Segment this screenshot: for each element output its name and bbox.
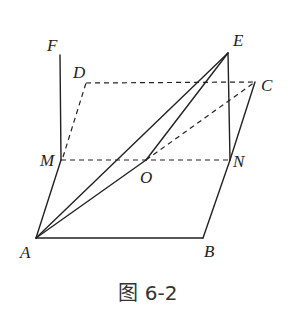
figure-caption: 图 6-2	[118, 281, 177, 305]
label-d: D	[72, 63, 86, 82]
label-a: A	[19, 243, 31, 262]
label-m: M	[39, 151, 55, 170]
label-b: B	[204, 242, 215, 261]
segment-md-dashed	[63, 83, 86, 157]
segment-ne	[228, 53, 230, 160]
segment-bn	[203, 160, 230, 238]
segment-ao	[36, 160, 146, 238]
geometry-figure: F D E C M O N A B 图 6-2	[0, 0, 296, 323]
label-e: E	[232, 31, 244, 50]
label-c: C	[261, 76, 273, 95]
label-n: N	[232, 152, 246, 171]
label-f: F	[46, 36, 58, 55]
segment-nc	[230, 82, 255, 160]
segment-dc-dashed	[86, 82, 255, 83]
segment-oe	[146, 53, 228, 160]
label-o: O	[140, 168, 152, 187]
segment-oc-dashed	[146, 82, 255, 160]
segment-ae	[36, 53, 228, 238]
segment-mf	[60, 55, 61, 160]
